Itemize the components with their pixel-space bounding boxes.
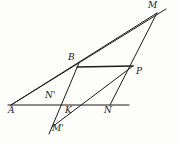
segment-a-to-m-lower-ray (11, 13, 157, 105)
vertex-label-A: A (8, 106, 15, 115)
figure-canvas (0, 0, 179, 145)
vertex-label-P: P (136, 67, 142, 76)
vertex-label-M-prime: M' (52, 124, 64, 133)
vertex-label-K: K (65, 106, 72, 115)
geometry-figure: A B P M K N N' M' (0, 0, 179, 145)
vertex-label-N: N (104, 106, 112, 115)
vertex-label-M: M (148, 1, 157, 10)
segment-b-to-p (77, 66, 133, 67)
vertex-label-N-prime: N' (45, 91, 55, 100)
segment-mprime-to-p (52, 66, 133, 127)
segment-m-to-n (110, 13, 157, 105)
vertex-label-B: B (68, 53, 75, 62)
